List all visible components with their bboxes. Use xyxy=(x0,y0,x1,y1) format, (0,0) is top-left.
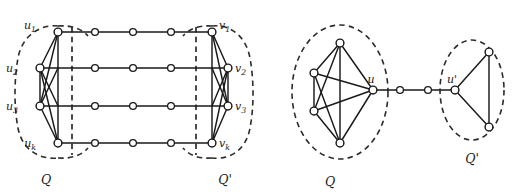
caption-Qp-right-diagram: Q' xyxy=(465,151,479,166)
vertex-v1 xyxy=(208,28,216,36)
vertex-v3 xyxy=(224,102,232,110)
vertex-q-upper-left xyxy=(310,69,318,77)
horizontal-paths xyxy=(40,32,228,143)
cluster-boundary-Q-left-bottom xyxy=(58,148,88,158)
label-vk: vk xyxy=(219,137,230,152)
caption-Qp-left: Q' xyxy=(218,172,232,187)
label-v1: v1 xyxy=(219,19,230,34)
right-cluster-Qp-edges xyxy=(455,52,489,127)
left-diagram: u1 u2 u3 uk v1 v2 v3 vk xyxy=(6,19,253,187)
vertex-uk xyxy=(54,139,62,147)
vertex-u3 xyxy=(36,102,44,110)
label-u-prime: u' xyxy=(447,73,457,86)
label-v2: v2 xyxy=(235,62,246,77)
vertex-qp-top xyxy=(485,48,493,56)
vertex-q-bottom xyxy=(336,139,344,147)
cluster-Qp-edges xyxy=(212,32,228,143)
vertex-vk xyxy=(208,139,216,147)
caption-Q-left: Q xyxy=(41,172,51,187)
vertex-q-lower-left xyxy=(310,107,318,115)
right-cluster-Q-edges xyxy=(314,43,373,143)
path-node-2 xyxy=(425,87,432,94)
path-intermediate-nodes xyxy=(92,29,175,147)
cluster-boundary-Q-left-top xyxy=(58,26,88,36)
vertex-u-prime xyxy=(451,86,459,94)
graph-figure-svg: u1 u2 u3 uk v1 v2 v3 vk xyxy=(0,0,522,194)
vertex-u2 xyxy=(36,64,44,72)
cluster-boundary-Qp-right-bottom xyxy=(183,148,212,158)
right-diagram: u u' Q Q' xyxy=(292,25,504,189)
label-u3: u3 xyxy=(6,100,18,115)
path-node-1 xyxy=(397,87,404,94)
label-u: u xyxy=(367,73,374,86)
cluster-Q-edges xyxy=(40,32,58,143)
vertex-qp-bottom xyxy=(485,123,493,131)
label-v3: v3 xyxy=(235,100,246,115)
label-uk: uk xyxy=(24,137,36,152)
figure-container: u1 u2 u3 uk v1 v2 v3 vk xyxy=(0,0,522,194)
vertex-u xyxy=(369,86,377,94)
vertex-u1 xyxy=(54,28,62,36)
vertex-q-top xyxy=(336,39,344,47)
label-u1: u1 xyxy=(24,19,36,34)
vertex-v2 xyxy=(224,64,232,72)
caption-Q-right-diagram: Q xyxy=(325,174,335,189)
